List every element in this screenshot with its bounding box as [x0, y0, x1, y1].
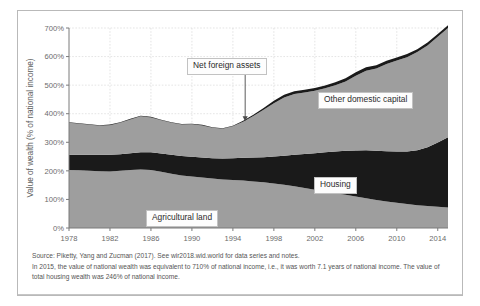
svg-text:2010: 2010: [388, 234, 405, 243]
svg-text:400%: 400%: [45, 109, 65, 118]
notes-detail-line: In 2015, the value of national wealth wa…: [32, 262, 452, 283]
figure-frame: 0%100%200%300%400%500%600%700% 197819821…: [17, 10, 463, 296]
stacked-area-chart: 0%100%200%300%400%500%600%700% 197819821…: [18, 11, 464, 251]
chart-svg: 0%100%200%300%400%500%600%700% 197819821…: [18, 11, 464, 251]
y-axis-title: Value of wealth (% of national income): [26, 58, 35, 197]
svg-text:300%: 300%: [45, 138, 65, 147]
figure-notes: Source: Piketty, Yang and Zucman (2017).…: [32, 251, 452, 283]
svg-text:200%: 200%: [45, 167, 65, 176]
x-tick-labels: 1978198219861990199419982002200620102014: [61, 234, 447, 243]
callout-housing: Housing: [314, 177, 357, 194]
area-series-group: [69, 25, 448, 228]
callout-net-foreign-assets: Net foreign assets: [187, 58, 267, 75]
callout-other-domestic-capital: Other domestic capital: [318, 92, 413, 109]
svg-text:1978: 1978: [61, 234, 78, 243]
svg-text:Value of wealth (% of national: Value of wealth (% of national income): [26, 58, 35, 197]
svg-text:0%: 0%: [53, 224, 64, 233]
svg-text:1994: 1994: [224, 234, 241, 243]
svg-text:1986: 1986: [142, 234, 159, 243]
notes-source-line: Source: Piketty, Yang and Zucman (2017).…: [32, 251, 452, 262]
callout-agricultural-land: Agricultural land: [146, 210, 218, 227]
svg-text:600%: 600%: [45, 52, 65, 61]
notes-divider: [18, 294, 462, 295]
y-tick-labels: 0%100%200%300%400%500%600%700%: [45, 24, 65, 233]
svg-text:1998: 1998: [265, 234, 282, 243]
svg-text:2006: 2006: [347, 234, 364, 243]
svg-text:1990: 1990: [183, 234, 200, 243]
svg-text:2002: 2002: [306, 234, 323, 243]
svg-text:100%: 100%: [45, 195, 65, 204]
svg-text:1982: 1982: [102, 234, 119, 243]
svg-text:700%: 700%: [45, 24, 65, 33]
svg-text:500%: 500%: [45, 81, 65, 90]
svg-text:2014: 2014: [429, 234, 446, 243]
